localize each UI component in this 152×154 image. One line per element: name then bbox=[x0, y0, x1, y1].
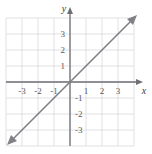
x-tick-label-1: 1 bbox=[84, 86, 89, 96]
x-tick-label-neg1: -1 bbox=[50, 86, 58, 96]
y-tick-label-neg3: -3 bbox=[75, 125, 83, 135]
x-tick-label-neg3: -3 bbox=[18, 86, 26, 96]
y-axis bbox=[67, 7, 73, 146]
y-tick-label-2: 2 bbox=[61, 45, 66, 55]
x-axis-name-label: x bbox=[141, 85, 147, 96]
x-tick-label-3: 3 bbox=[116, 86, 121, 96]
x-tick-label-neg2: -2 bbox=[34, 86, 42, 96]
y-tick-label-1: 1 bbox=[61, 61, 66, 71]
y-axis-arrow-icon bbox=[67, 7, 73, 14]
x-tick-label-2: 2 bbox=[100, 86, 105, 96]
x-axis bbox=[6, 79, 143, 85]
line-y-equals-x bbox=[7, 15, 137, 145]
y-tick-label-3: 3 bbox=[61, 29, 66, 39]
y-tick-label-neg1: -1 bbox=[75, 93, 83, 103]
y-tick-label-neg2: -2 bbox=[75, 109, 83, 119]
graph-figure: -3 -2 -1 1 2 3 3 2 1 -1 -2 -3 y x bbox=[0, 0, 152, 154]
y-axis-name-label: y bbox=[61, 3, 67, 14]
coordinate-plane-svg: -3 -2 -1 1 2 3 3 2 1 -1 -2 -3 y x bbox=[0, 0, 152, 154]
